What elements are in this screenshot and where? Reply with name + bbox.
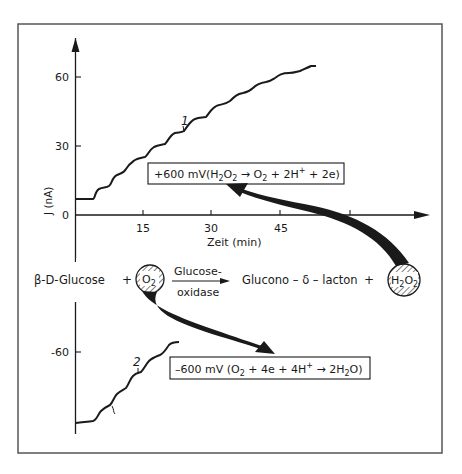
- y-tick-30: 30: [55, 140, 69, 153]
- x-axis-label: Zeit (min): [207, 236, 262, 249]
- reaction-plus-1: +: [122, 273, 132, 287]
- y-axis: [72, 38, 82, 434]
- enzyme-name-line1: Glucose-: [174, 265, 222, 278]
- y-axis-label: J (nA): [42, 187, 54, 216]
- curve-2: [76, 342, 179, 423]
- y-tick-0: 0: [62, 209, 69, 222]
- x-axis: [76, 210, 431, 219]
- x-axis-arrow-icon: [414, 211, 430, 219]
- reaction-plus-2: +: [364, 273, 374, 287]
- reduction-equation: –600 mV (O2 + 4e + 4H+ → 2H2O): [175, 361, 362, 378]
- curve-1-label: 1: [181, 114, 189, 128]
- y-tick-60: 60: [55, 71, 69, 84]
- h2o2-circle-icon: H2O2: [388, 264, 420, 296]
- reduction-arrow-icon: [142, 291, 262, 349]
- reaction-arrow-icon: [220, 278, 230, 284]
- y-tick-minus-60: -60: [51, 346, 69, 359]
- reaction-product: Glucono – δ – lacton: [242, 273, 358, 287]
- curve-2-label: 2: [133, 355, 141, 369]
- x-tick-45: 45: [274, 222, 288, 235]
- figure: 60 30 0 -60 J (nA) 15 30 45 Zeit (min) 1…: [0, 0, 462, 474]
- reaction-substrate: β-D-Glucose: [34, 273, 105, 287]
- y-axis-arrow-icon: [72, 38, 80, 52]
- o2-circle-icon: O2: [136, 265, 164, 293]
- oxidation-arrow-icon: [240, 189, 409, 266]
- x-tick-15: 15: [136, 222, 150, 235]
- oxidation-equation: +600 mV(H2O2 → O2 + 2H+ + 2e): [154, 166, 340, 183]
- x-tick-30: 30: [204, 222, 218, 235]
- enzyme-name-line2: oxidase: [177, 286, 219, 299]
